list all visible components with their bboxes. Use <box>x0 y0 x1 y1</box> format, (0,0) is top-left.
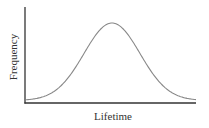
x-axis-label: Lifetime <box>94 110 132 122</box>
y-axis-label: Frequency <box>7 33 19 80</box>
distribution-curve <box>26 23 196 100</box>
bell-curve-chart: Lifetime Frequency <box>0 0 209 128</box>
